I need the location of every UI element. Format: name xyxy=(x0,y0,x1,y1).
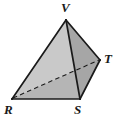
vertex-label-T: T xyxy=(104,52,112,65)
vertex-point-S xyxy=(79,98,81,100)
tetrahedron-drawing xyxy=(0,0,118,121)
tetrahedron-figure: V T R S xyxy=(0,0,118,121)
vertex-label-S: S xyxy=(74,103,81,116)
vertex-point-V xyxy=(65,19,67,21)
vertex-label-R: R xyxy=(4,103,13,116)
vertex-point-R xyxy=(11,98,13,100)
vertex-label-V: V xyxy=(61,1,70,14)
vertex-point-T xyxy=(99,59,101,61)
